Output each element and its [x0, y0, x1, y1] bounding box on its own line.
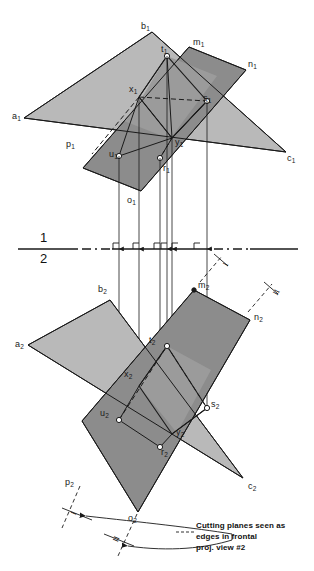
point-marker-u2: [116, 417, 121, 422]
right-angle-mark-x: [133, 243, 139, 249]
top-view-group: [24, 32, 286, 191]
point-marker-s2: [204, 405, 209, 410]
label-c1: c1: [287, 154, 296, 163]
label-s1: s1: [203, 94, 212, 103]
label-a1: a1: [12, 112, 21, 121]
right-angle-mark-r: [161, 243, 167, 249]
label-n1: n1: [248, 60, 257, 69]
label-o2: o2: [128, 514, 137, 523]
figure-root: a1 b1 c1 m1 n1 p1 o1 t1 s1 x1 y1 u1 r1 a…: [0, 0, 314, 571]
label-u2: u2: [100, 409, 109, 418]
right-angle-mark-s: [194, 243, 200, 249]
label-y1: y1: [175, 138, 184, 147]
fold-line-number-upper: 1: [40, 231, 47, 244]
right-angle-marks: [113, 243, 200, 249]
label-p1: p1: [66, 140, 75, 149]
label-o1: o1: [127, 196, 136, 205]
label-a2: a2: [15, 340, 24, 349]
label-b2: b2: [98, 285, 107, 294]
label-u1: u1: [109, 150, 118, 159]
dash-extension-p2: [62, 486, 80, 528]
label-m2: m2: [198, 281, 210, 290]
label-r2: r2: [161, 448, 168, 457]
right-angle-mark-u: [113, 243, 119, 249]
point-marker-m2: [192, 288, 196, 292]
label-x1: x1: [129, 85, 138, 94]
edge-leader-I-top: [200, 256, 222, 282]
label-c2: c2: [248, 482, 257, 491]
label-m1: m1: [193, 38, 205, 47]
point-marker-t2: [164, 343, 169, 348]
fold-line-number-lower: 2: [40, 252, 47, 265]
descriptive-geometry-drawing: [0, 0, 314, 571]
right-angle-mark-t: [154, 243, 160, 249]
label-p2: p2: [65, 478, 74, 487]
label-x2: x2: [124, 370, 133, 379]
right-angle-mark-y: [172, 243, 178, 249]
figure-caption: Cutting planes seen as edges in frontal …: [196, 521, 312, 553]
label-b1: b1: [141, 22, 150, 31]
label-s2: s2: [211, 400, 220, 409]
edge-leader-II-top: [248, 284, 272, 312]
label-n2: n2: [254, 313, 263, 322]
fold-line-group: [18, 243, 298, 249]
label-t2: t2: [149, 336, 156, 345]
label-y2: y2: [176, 428, 185, 437]
label-t1: t1: [161, 45, 168, 54]
label-r1: r1: [163, 164, 170, 173]
